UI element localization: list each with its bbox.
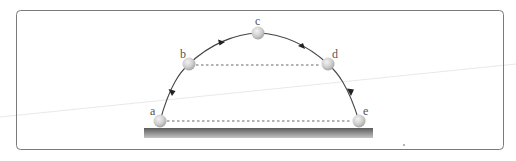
label-e: e (363, 104, 368, 118)
scan-line (0, 64, 516, 117)
trajectory-path (160, 33, 359, 121)
ball-c (252, 27, 265, 40)
label-b: b (180, 47, 186, 61)
projectile-diagram: a b c d e (0, 0, 516, 161)
ball-a (154, 115, 167, 128)
ground (144, 128, 373, 138)
dot-artifact (403, 144, 405, 146)
label-c: c (255, 14, 260, 28)
label-d: d (332, 47, 338, 61)
label-a: a (150, 104, 156, 118)
